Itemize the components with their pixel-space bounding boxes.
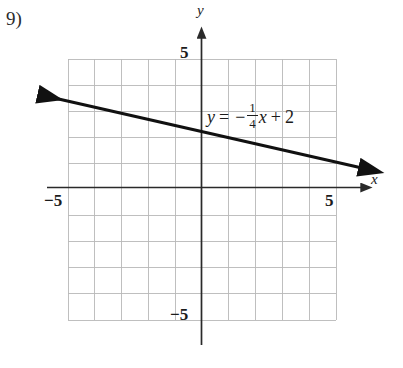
graph-canvas xyxy=(0,0,403,368)
worksheet-page: 9) xyxy=(0,0,403,368)
equation-plus-sign: + xyxy=(271,108,281,126)
x-axis-tick-label-5: 5 xyxy=(325,191,334,211)
y-axis-label: y xyxy=(197,2,204,19)
equation-fraction-one-fourth: 1 4 xyxy=(247,101,258,131)
equation-constant: 2 xyxy=(285,108,294,126)
coordinate-graph: y x 5 −5 5 −5 y = − 1 4 x + 2 xyxy=(0,0,403,368)
equation-negative-sign: − xyxy=(235,108,245,126)
fraction-numerator: 1 xyxy=(247,101,258,114)
equation-variable-x: x xyxy=(259,108,267,126)
y-axis-tick-label-negative-5: −5 xyxy=(170,305,188,325)
fraction-denominator: 4 xyxy=(247,117,258,130)
equation-lhs: y xyxy=(207,108,215,126)
y-axis-tick-label-5: 5 xyxy=(180,43,189,63)
equation-annotation: y = − 1 4 x + 2 xyxy=(207,102,294,132)
x-axis-label: x xyxy=(371,171,378,188)
x-axis-tick-label-negative-5: −5 xyxy=(44,191,62,211)
equation-equals-sign: = xyxy=(219,108,229,126)
